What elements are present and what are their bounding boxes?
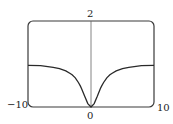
x-zero-label: 0 — [87, 111, 93, 121]
x-min-label: −10 — [7, 100, 28, 110]
x-max-label: 10 — [157, 103, 170, 113]
y-max-label: 2 — [87, 9, 93, 19]
